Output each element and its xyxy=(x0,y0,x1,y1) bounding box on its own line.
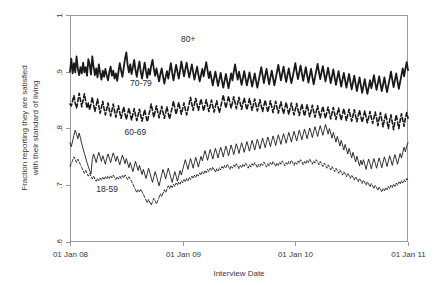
y-tick-label: .9 xyxy=(55,69,64,76)
plot-frame xyxy=(71,16,408,242)
series-line-80 xyxy=(70,52,408,93)
chart-figure: 1.9.8.7.6 01 Jan 0801 Jan 0901 Jan 1001 … xyxy=(0,0,434,285)
x-axis-title: Interview Date xyxy=(213,269,265,278)
x-tick-label: 01 Jan 11 xyxy=(391,250,426,259)
series-label-6069: 60-69 xyxy=(124,127,146,137)
y-axis-title-line-2: with their standard of living xyxy=(31,81,40,177)
y-tick-label: .7 xyxy=(55,182,64,189)
x-tick-label: 01 Jan 09 xyxy=(166,250,202,259)
x-tick-label: 01 Jan 08 xyxy=(53,250,89,259)
chart-canvas: 1.9.8.7.6 01 Jan 0801 Jan 0901 Jan 1001 … xyxy=(0,0,434,285)
series-lines xyxy=(70,52,408,205)
series-line-6069 xyxy=(70,125,408,186)
y-tick-label: .8 xyxy=(55,125,64,132)
series-line-7079 xyxy=(70,93,408,129)
y-tick-label: 1 xyxy=(55,13,64,18)
series-label-7079: 70-79 xyxy=(130,78,152,88)
series-label-80: 80+ xyxy=(181,34,195,44)
series-line-1859 xyxy=(70,157,408,205)
y-axis-title-line-1: Fraction reporting they are satisfied xyxy=(20,65,29,190)
y-axis: 1.9.8.7.6 xyxy=(55,13,71,246)
x-tick-label: 01 Jan 10 xyxy=(278,250,314,259)
y-tick-label: .6 xyxy=(55,239,64,246)
series-label-1859: 18-59 xyxy=(96,184,118,194)
x-axis: 01 Jan 0801 Jan 0901 Jan 1001 Jan 11 xyxy=(53,242,426,259)
